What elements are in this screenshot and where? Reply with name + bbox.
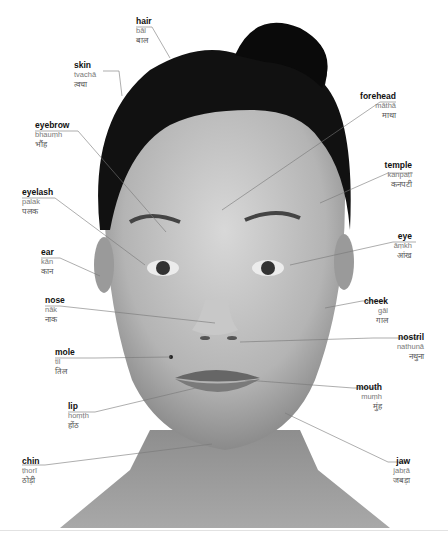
label-eye: eye āṃkh आंख bbox=[394, 231, 412, 261]
label-nose: nose nāk नाक bbox=[45, 295, 65, 325]
label-chin-hi: ठोड़ी bbox=[22, 476, 39, 486]
label-eyelash-hi: पलक bbox=[22, 207, 53, 217]
footer-divider bbox=[0, 530, 448, 531]
label-lip-en: lip bbox=[68, 401, 89, 411]
label-nose-tr: nāk bbox=[45, 305, 65, 315]
label-lip: lip hoṃṭh होंठ bbox=[68, 401, 89, 431]
label-temple-tr: kanpaṭī bbox=[385, 170, 412, 180]
label-temple-en: temple bbox=[385, 160, 412, 170]
label-cheek-tr: gāl bbox=[364, 306, 388, 316]
label-mouth-hi: मुंह bbox=[356, 402, 382, 412]
label-nostril-tr: nathunā bbox=[397, 342, 424, 352]
label-mole-tr: til bbox=[55, 357, 75, 367]
label-ear: ear kān कान bbox=[41, 247, 54, 277]
label-hair: hair bāl बाल bbox=[136, 16, 152, 46]
label-eyebrow-hi: भौंह bbox=[35, 140, 70, 150]
label-nostril: nostril nathunā नथुना bbox=[397, 332, 424, 362]
label-jaw-hi: जबड़ा bbox=[393, 476, 410, 486]
label-skin-hi: त्वचा bbox=[74, 80, 96, 90]
label-mole-en: mole bbox=[55, 347, 75, 357]
label-eye-tr: āṃkh bbox=[394, 241, 412, 251]
label-chin-en: chin bbox=[22, 456, 39, 466]
label-eyebrow: eyebrow bhauṃh भौंह bbox=[35, 120, 70, 150]
label-jaw-tr: jabṛā bbox=[393, 466, 410, 476]
face-photo bbox=[0, 0, 448, 530]
label-eye-hi: आंख bbox=[394, 251, 412, 261]
label-jaw: jaw jabṛā जबड़ा bbox=[393, 456, 410, 486]
label-temple-hi: कनपटी bbox=[385, 180, 412, 190]
label-nostril-hi: नथुना bbox=[397, 352, 424, 362]
label-forehead-en: forehead bbox=[360, 91, 396, 101]
label-forehead-hi: माथा bbox=[360, 111, 396, 121]
label-eyebrow-en: eyebrow bbox=[35, 120, 70, 130]
label-forehead: forehead māthā माथा bbox=[360, 91, 396, 121]
label-hair-hi: बाल bbox=[136, 36, 152, 46]
label-cheek-en: cheek bbox=[364, 296, 388, 306]
label-ear-hi: कान bbox=[41, 267, 54, 277]
label-ear-en: ear bbox=[41, 247, 54, 257]
label-ear-tr: kān bbox=[41, 257, 54, 267]
label-mouth-tr: muṃh bbox=[356, 392, 382, 402]
label-cheek: cheek gāl गाल bbox=[364, 296, 388, 326]
label-temple: temple kanpaṭī कनपटी bbox=[385, 160, 412, 190]
label-mouth-en: mouth bbox=[356, 382, 382, 392]
label-chin-tr: ṭhorī bbox=[22, 466, 39, 476]
label-mouth: mouth muṃh मुंह bbox=[356, 382, 382, 412]
label-hair-tr: bāl bbox=[136, 26, 152, 36]
label-eyelash-en: eyelash bbox=[22, 187, 53, 197]
label-cheek-hi: गाल bbox=[364, 316, 388, 326]
label-eye-en: eye bbox=[394, 231, 412, 241]
label-nostril-en: nostril bbox=[397, 332, 424, 342]
label-forehead-tr: māthā bbox=[360, 101, 396, 111]
label-mole-hi: तिल bbox=[55, 367, 75, 377]
label-skin: skin tvachā त्वचा bbox=[74, 60, 96, 90]
label-nose-hi: नाक bbox=[45, 315, 65, 325]
label-nose-en: nose bbox=[45, 295, 65, 305]
label-skin-en: skin bbox=[74, 60, 96, 70]
label-lip-hi: होंठ bbox=[68, 421, 89, 431]
label-mole: mole til तिल bbox=[55, 347, 75, 377]
label-jaw-en: jaw bbox=[393, 456, 410, 466]
label-chin: chin ṭhorī ठोड़ी bbox=[22, 456, 39, 486]
label-skin-tr: tvachā bbox=[74, 70, 96, 80]
label-hair-en: hair bbox=[136, 16, 152, 26]
label-eyelash-tr: palak bbox=[22, 197, 53, 207]
label-eyelash: eyelash palak पलक bbox=[22, 187, 53, 217]
label-eyebrow-tr: bhauṃh bbox=[35, 130, 70, 140]
label-lip-tr: hoṃṭh bbox=[68, 411, 89, 421]
